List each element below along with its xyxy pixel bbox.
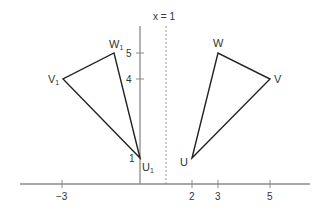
vertex-label-u1: U1: [142, 161, 154, 174]
triangle-original: [192, 53, 270, 158]
x-tick-label: 3: [215, 191, 221, 202]
x-tick-label: 5: [267, 191, 273, 202]
vertex-label-u: U: [180, 156, 188, 168]
y-tick-label: 1: [129, 153, 135, 164]
vertex-label-w1: W1: [109, 38, 123, 51]
reflection-diagram: x = 1 −3 2 3 5 5 4 1 W1 V1 U1 W V U: [0, 0, 324, 212]
mirror-label: x = 1: [153, 11, 175, 22]
y-tick-label: 5: [126, 48, 132, 59]
x-tick-label: −3: [56, 191, 68, 202]
triangle-image: [63, 53, 140, 158]
y-tick-label: 4: [126, 74, 132, 85]
vertex-label-v: V: [274, 73, 282, 85]
vertex-label-w: W: [213, 37, 224, 49]
vertex-label-v1: V1: [48, 73, 59, 86]
x-tick-label: 2: [189, 191, 195, 202]
